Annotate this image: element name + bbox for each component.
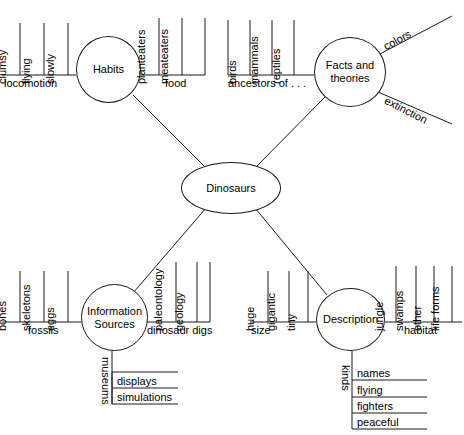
label-paleontology: paleontology [152, 269, 164, 331]
label-jungle: jungle [373, 302, 385, 331]
label-peaceful: peaceful [357, 416, 399, 428]
label-bones: bones [0, 301, 8, 331]
edge-dinosaurs-facts [255, 97, 325, 168]
label-eggs: eggs [44, 307, 56, 331]
label-flying-kind: flying [357, 384, 383, 396]
node-facts-and-theories[interactable]: Facts and theories [314, 37, 386, 107]
edge-dinosaurs-description [255, 208, 327, 295]
node-dinosaurs[interactable]: Dinosaurs [181, 162, 281, 214]
node-information-sources-label: Information Sources [82, 305, 147, 331]
node-dinosaurs-label: Dinosaurs [206, 182, 256, 195]
edge-dinosaurs-habits [133, 95, 206, 168]
label-other: other [411, 306, 423, 331]
label-planteaters: planteaters [135, 30, 147, 84]
node-habits-label: Habits [93, 63, 124, 76]
label-swamps: swamps [393, 291, 405, 331]
label-life-forms: life forms [429, 286, 441, 331]
label-clumsy: clumsy [0, 50, 8, 84]
label-gigantic: gigantic [265, 293, 277, 331]
label-flying: flying [20, 58, 32, 84]
node-facts-and-theories-label: Facts and theories [315, 59, 385, 85]
label-huge: huge [244, 307, 256, 331]
label-ancestors-of: ancestors of . . . [228, 77, 306, 89]
concept-map-canvas: Dinosaurs Habits locomotion clumsy flyin… [0, 0, 464, 435]
label-simulations: simulations [117, 391, 172, 403]
label-geology: geology [173, 292, 185, 331]
node-information-sources[interactable]: Information Sources [81, 284, 148, 351]
edge-dinosaurs-information-sources [133, 208, 206, 293]
label-skeletons: skeletons [20, 285, 32, 331]
node-description-label: Description [323, 313, 378, 326]
label-displays: displays [117, 375, 157, 387]
label-kinds: kinds [340, 365, 352, 391]
label-reptiles: reptiles [270, 49, 282, 84]
node-habits[interactable]: Habits [76, 36, 141, 103]
label-tiny: tiny [285, 314, 297, 331]
label-meateaters: meateaters [158, 29, 170, 84]
label-slowly: slowly [44, 54, 56, 84]
label-birds: birds [226, 60, 238, 84]
label-museums: museums [100, 357, 112, 405]
label-names: names [357, 367, 390, 379]
label-fighters: fighters [357, 400, 393, 412]
label-mammals: mammals [248, 36, 260, 84]
